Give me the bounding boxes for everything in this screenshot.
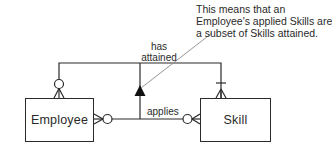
employee-applies-zero-or-many-icon <box>94 114 112 124</box>
annotation-line-3: a subset of Skills attained. <box>196 27 332 39</box>
skill-entity-label: Skill <box>224 113 248 127</box>
skill-entity: Skill <box>200 98 271 142</box>
subset-annotation-note: This means that an Employee's applied Sk… <box>196 3 332 39</box>
skill-applies-zero-or-many-icon <box>183 114 200 124</box>
annotation-line-1: This means that an <box>196 3 332 15</box>
has-attained-label-line1: has <box>133 41 185 52</box>
has-attained-label: has attained <box>133 41 185 63</box>
annotation-line-2: Employee's applied Skills are <box>196 15 332 27</box>
subset-arrow-icon <box>135 85 146 96</box>
employee-entity-label: Employee <box>31 113 88 127</box>
employee-entity: Employee <box>25 98 94 142</box>
applies-label: applies <box>147 106 179 117</box>
has-attained-label-line2: attained <box>133 52 185 63</box>
employee-has-attained-zero-or-many-icon <box>54 80 64 99</box>
